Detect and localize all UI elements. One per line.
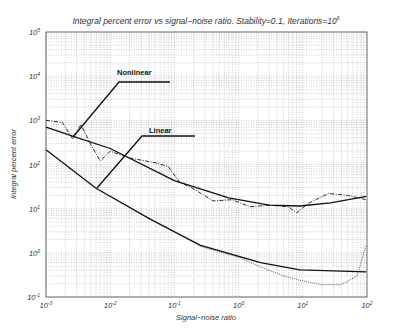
x-tick-label: 10-2	[104, 300, 117, 310]
chart-title: Integral percent error vs signal−noise r…	[72, 15, 339, 26]
x-tick-label: 10-1	[168, 300, 181, 310]
y-axis-label: Integral percent error	[9, 128, 18, 199]
x-axis-label: Signal−noise ratio	[176, 313, 236, 322]
axis-ticks: 10-310-210-110010110210-1100101102103104…	[27, 27, 373, 310]
series-group	[46, 120, 366, 284]
y-tick-label: 105	[29, 27, 40, 37]
y-tick-label: 102	[29, 160, 40, 170]
grid	[46, 32, 367, 297]
x-tick-label: 10-3	[40, 300, 53, 310]
y-tick-label: 10-1	[27, 292, 40, 302]
y-tick-label: 104	[29, 71, 40, 81]
annotation-label: Linear	[149, 126, 172, 135]
annotation-label: Nonlinear	[117, 68, 152, 77]
x-tick-label: 101	[297, 300, 308, 310]
chart: Integral percent error vs signal−noise r…	[0, 0, 393, 335]
y-tick-label: 103	[29, 115, 40, 125]
x-tick-label: 100	[233, 300, 244, 310]
annotation-leader-line	[97, 136, 195, 188]
y-tick-label: 100	[29, 248, 40, 258]
x-tick-label: 102	[361, 300, 372, 310]
y-tick-label: 101	[29, 204, 40, 214]
